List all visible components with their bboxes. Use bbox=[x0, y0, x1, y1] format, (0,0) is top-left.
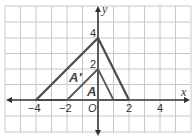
x-axis-left-arrow-icon bbox=[6, 97, 12, 103]
y-axis-up-arrow-icon bbox=[95, 6, 101, 12]
x-axis-label: x bbox=[180, 85, 187, 99]
x-tick-label: −4 bbox=[28, 102, 41, 114]
y-tick-label: 4 bbox=[90, 27, 96, 39]
x-tick-label: −2 bbox=[59, 102, 72, 114]
triangle-a-prime-label: A′ bbox=[68, 70, 82, 85]
y-tick-label: 2 bbox=[90, 58, 96, 70]
y-axis-down-arrow-icon bbox=[95, 130, 101, 136]
origin-label: O bbox=[88, 102, 97, 114]
coordinate-graph: y x O −4 −2 2 4 4 2 A′ A bbox=[0, 0, 192, 138]
x-tick-label: 4 bbox=[157, 102, 163, 114]
x-tick-label: 2 bbox=[126, 102, 132, 114]
y-axis-label: y bbox=[101, 2, 108, 16]
triangle-a-label: A bbox=[86, 84, 96, 99]
